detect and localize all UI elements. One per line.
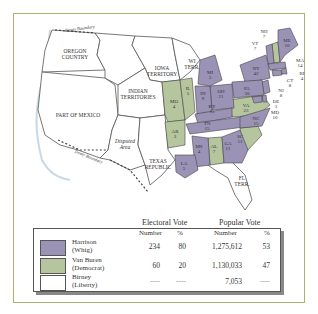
- col-ev-number: Number: [139, 229, 162, 237]
- swatch-liberty: [40, 275, 66, 291]
- legend-row-birney: Birney(Liberty) ---- ---- 7,053 ----: [34, 273, 280, 291]
- label-ct: CT8: [287, 78, 293, 88]
- state-al: [208, 137, 224, 165]
- pop-percent-birney: ----: [252, 277, 270, 286]
- label-ma: MA14: [296, 58, 304, 68]
- state-de: [262, 95, 267, 102]
- candidate-vanburen: Van Buren(Democrat): [72, 257, 104, 272]
- label-de: DE3: [273, 99, 280, 109]
- swatch-democrat: [40, 258, 66, 274]
- ev-number-harrison: 234: [140, 242, 160, 251]
- pop-number-birney: 7,053: [202, 277, 242, 286]
- ev-number-birney: ----: [138, 277, 160, 286]
- legend-header-electoral: Electoral Vote: [142, 218, 187, 227]
- label-pa: PA30: [244, 86, 250, 96]
- label-nh: NH7: [260, 29, 268, 39]
- legend-row-vanburen: Van Buren(Democrat) 60 20 1,130,033 47: [34, 256, 280, 274]
- col-pop-percent: %: [264, 229, 270, 237]
- label-mexico: PART OF MEXICO: [56, 112, 101, 118]
- legend-table: Electoral Vote Popular Vote Number % Num…: [33, 228, 281, 292]
- col-pop-number: Number: [214, 229, 237, 237]
- col-ev-percent: %: [177, 229, 183, 237]
- legend-header-popular: Popular Vote: [219, 218, 260, 227]
- state-md: [252, 96, 262, 103]
- state-la: [175, 155, 198, 178]
- ev-number-vanburen: 60: [140, 261, 160, 270]
- state-ct: [272, 70, 282, 76]
- candidate-birney: Birney(Liberty): [72, 274, 97, 289]
- ev-percent-harrison: 80: [170, 242, 186, 251]
- pop-percent-vanburen: 47: [256, 261, 270, 270]
- label-vt: VT7: [252, 41, 259, 51]
- legend-row-harrison: Harrison(Whig) 234 80 1,275,612 53: [34, 238, 280, 256]
- label-nj: NJ8: [278, 88, 284, 98]
- label-oregon: OREGONCOUNTRY: [62, 48, 88, 60]
- pop-number-harrison: 1,275,612: [202, 242, 242, 251]
- label-md: MD10: [271, 110, 279, 120]
- label-ri: RI4: [300, 71, 305, 81]
- candidate-harrison: Harrison(Whig): [72, 239, 97, 254]
- pop-number-vanburen: 1,130,033: [202, 261, 242, 270]
- ev-percent-birney: ----: [168, 277, 186, 286]
- swatch-whig: [40, 240, 66, 256]
- pop-percent-harrison: 53: [256, 242, 270, 251]
- ev-percent-vanburen: 20: [170, 261, 186, 270]
